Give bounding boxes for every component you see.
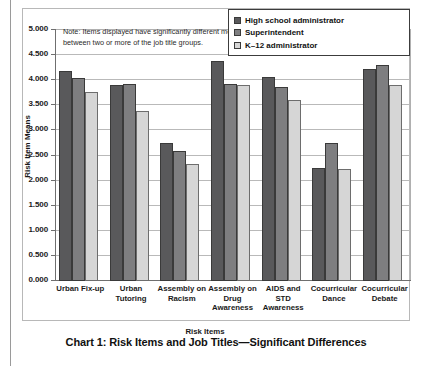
bar[interactable] [325,143,338,281]
bar-group [59,30,98,281]
chart-legend: High school administrator Superintendent… [228,9,410,56]
bar-groups [55,29,411,281]
figure-caption: Chart 1: Risk Items and Job Titles—Signi… [22,336,410,348]
bar-group [262,30,301,281]
bar[interactable] [262,77,275,281]
bar[interactable] [59,71,72,281]
bar[interactable] [275,87,288,281]
bar[interactable] [123,84,136,281]
y-axis-tick-label: 0.000 [2,275,48,284]
bar[interactable] [136,111,149,281]
bar-group [363,30,402,281]
bar[interactable] [288,100,301,281]
legend-label: K–12 administrator [245,41,317,50]
x-axis-tick-label: CocurricularDebate [355,284,414,303]
y-axis-tick-label: 1.000 [2,225,48,234]
bar[interactable] [110,85,123,281]
bar[interactable] [312,168,325,281]
bar[interactable] [160,143,173,281]
legend-swatch-icon [234,17,241,24]
legend-item-2[interactable]: K–12 administrator [234,39,404,52]
bar[interactable] [338,169,351,281]
bar-group [211,30,250,281]
legend-swatch-icon [234,29,241,36]
bar[interactable] [389,85,402,281]
bar-group [312,30,351,281]
legend-item-0[interactable]: High school administrator [234,14,404,27]
legend-label: Superintendent [245,28,304,37]
bar[interactable] [72,78,85,281]
y-axis-tick-label: 0.500 [2,250,48,259]
x-axis-tick-label-line: Awareness [254,303,313,313]
bar[interactable] [211,61,224,281]
y-axis-tick-label: 4.000 [2,74,48,83]
chart-figure: 0.0000.5001.0001.5002.0002.5003.0003.500… [0,0,421,366]
y-axis-tick-label: 5.000 [2,24,48,33]
legend-label: High school administrator [245,16,344,25]
bar[interactable] [173,151,186,281]
x-axis-tick-label-line: Cocurricular [355,284,414,294]
y-axis-tick-label: 4.500 [2,49,48,58]
bar[interactable] [186,164,199,281]
bar[interactable] [85,92,98,281]
bar[interactable] [224,84,237,281]
bar[interactable] [237,85,250,281]
legend-item-1[interactable]: Superintendent [234,27,404,40]
bar[interactable] [376,65,389,281]
x-axis-tick-label-line: Debate [355,294,414,304]
legend-swatch-icon [234,42,241,49]
bar[interactable] [363,69,376,281]
x-axis-title: Risk Items [150,327,260,336]
bar-group [160,30,199,281]
x-axis-labels: Urban Fix-upUrbanTutoringAssembly onRaci… [55,284,411,332]
y-axis-title: Risk Item Means [23,92,32,202]
bar-group [110,30,149,281]
